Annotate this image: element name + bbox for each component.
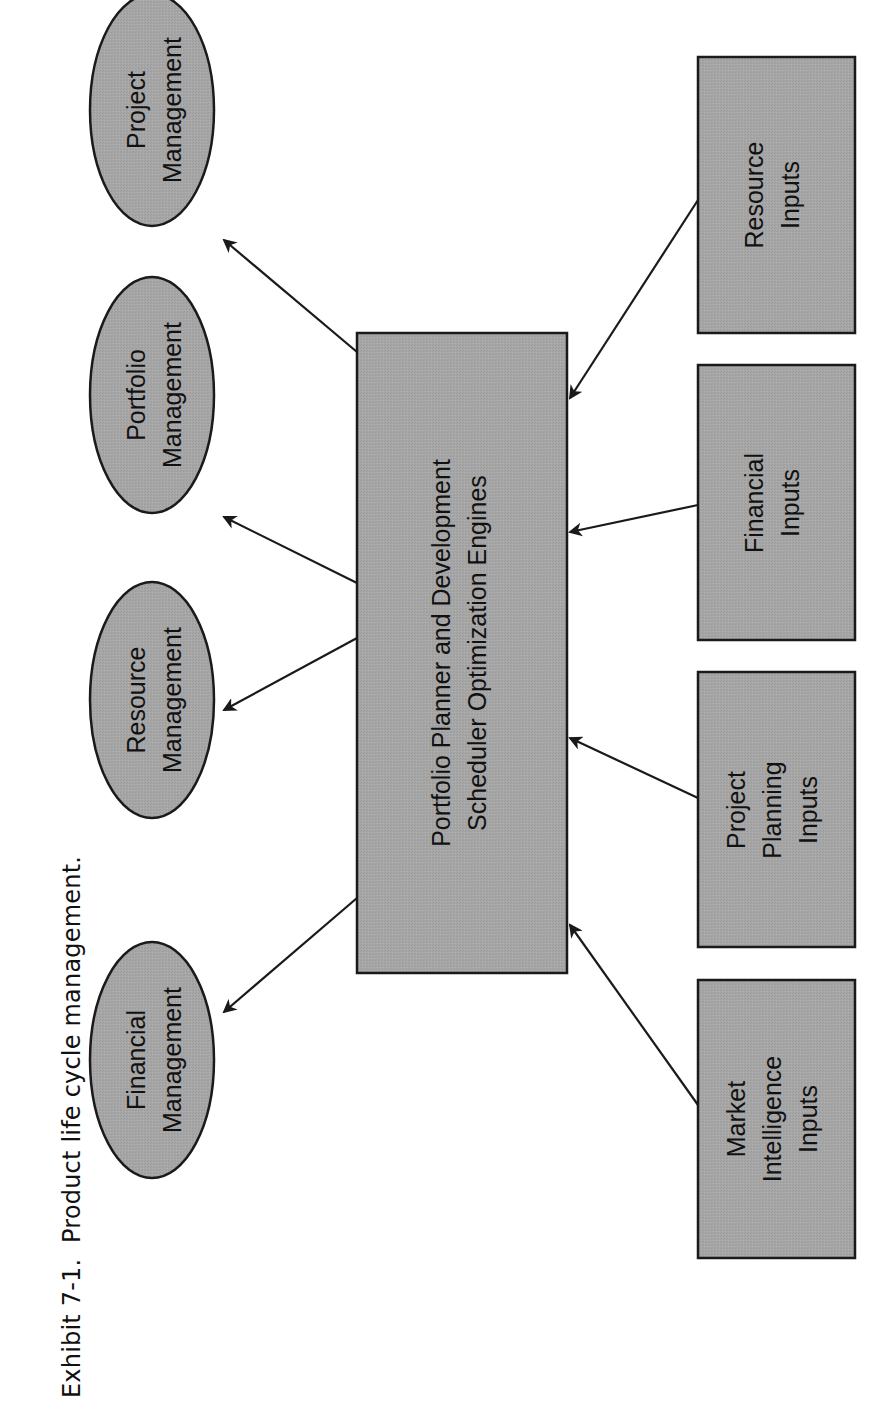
- arrow-from-resource: [570, 200, 698, 398]
- edges-outputs: [224, 240, 357, 1012]
- output-node-project-management: Project Management: [90, 0, 214, 226]
- figure-caption: Exhibit 7-1. Product life cycle manageme…: [58, 856, 86, 1398]
- output-node-financial-management: Financial Management: [90, 942, 214, 1178]
- arrow-from-financial: [570, 505, 698, 532]
- input-node-financial: Financial Inputs: [698, 365, 855, 640]
- arrow-to-project-management: [224, 240, 357, 352]
- center-node-optimization-engines: Portfolio Planner and Development Schedu…: [357, 333, 567, 973]
- output-node-resource-management: Resource Management: [90, 582, 214, 818]
- arrow-to-portfolio-management: [224, 517, 357, 583]
- caption-title: Product life cycle management.: [58, 856, 86, 1243]
- edges-inputs: [570, 200, 698, 1105]
- arrow-from-market-intelligence: [570, 925, 698, 1105]
- input-node-market-intelligence: Market Intelligence Inputs: [698, 980, 855, 1258]
- input-node-resource: Resource Inputs: [698, 57, 855, 333]
- arrow-from-project-planning: [570, 738, 698, 798]
- caption-label: Exhibit 7-1.: [58, 1259, 86, 1398]
- arrow-to-resource-management: [224, 638, 357, 710]
- output-node-portfolio-management: Portfolio Management: [90, 277, 214, 513]
- diagram-canvas: Financial Management Resource Management…: [0, 0, 894, 1417]
- input-node-project-planning: Project Planning Inputs: [698, 672, 855, 947]
- arrow-to-financial-management: [224, 898, 357, 1012]
